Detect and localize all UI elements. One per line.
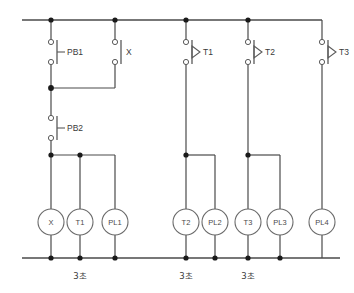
- pb1-terminal-top: [48, 39, 53, 44]
- contact-pb2[interactable]: PB2: [48, 115, 83, 140]
- group1-distribution-bus: [51, 155, 115, 258]
- coil-t3[interactable]: T3: [235, 209, 261, 235]
- node-bottom-x: [48, 255, 53, 260]
- contact-t2[interactable]: T2: [245, 39, 275, 64]
- t3-terminal-bottom: [319, 59, 324, 64]
- timer-setting-t2: 3초: [179, 271, 192, 281]
- coil-x-label: X: [48, 218, 53, 227]
- node-bottom-t3: [245, 255, 250, 260]
- contact-t3[interactable]: T3: [319, 39, 349, 64]
- node-bus2-left: [183, 152, 188, 157]
- node-bottom-t2: [183, 255, 188, 260]
- t2-terminal-top: [245, 39, 250, 44]
- coil-t1[interactable]: T1: [67, 209, 93, 235]
- lamp-pl2-label: PL2: [208, 218, 221, 227]
- t1-terminal-bottom: [183, 59, 188, 64]
- lamp-pl4[interactable]: PL4: [309, 209, 335, 235]
- x-terminal-top: [112, 39, 117, 44]
- t2-timer-triangle-icon: [254, 46, 262, 58]
- node-top-x: [112, 17, 117, 22]
- node-bottom-pl2: [212, 255, 217, 260]
- node-bus3-left: [245, 152, 250, 157]
- node-bottom-t1: [77, 255, 82, 260]
- pb1-terminal-bottom: [48, 59, 53, 64]
- node-top-t2: [245, 17, 250, 22]
- lamp-pl1[interactable]: PL1: [102, 209, 128, 235]
- lamp-pl1-label: PL1: [108, 218, 121, 227]
- timer-setting-t3: 3초: [241, 271, 254, 281]
- t1-timer-triangle-icon: [192, 46, 200, 58]
- t3-terminal-top: [319, 39, 324, 44]
- diagram-canvas: PB1 X PB2 T1: [0, 0, 354, 293]
- contact-x-label: X: [126, 47, 132, 57]
- contact-t1-label: T1: [203, 47, 213, 57]
- lamp-pl4-label: PL4: [315, 218, 328, 227]
- node-bus1-left: [48, 152, 53, 157]
- t3-timer-triangle-icon: [328, 46, 336, 58]
- contact-t2-label: T2: [265, 47, 275, 57]
- t1-terminal-top: [183, 39, 188, 44]
- coil-t1-label: T1: [76, 218, 85, 227]
- lamp-pl3-label: PL3: [273, 218, 286, 227]
- coil-t2-label: T2: [182, 218, 191, 227]
- timer-setting-labels: 3초 3초 3초: [73, 271, 254, 281]
- contact-t1[interactable]: T1: [183, 39, 213, 64]
- ladder-diagram-svg: PB1 X PB2 T1: [0, 0, 354, 293]
- contact-pb1-label: PB1: [67, 47, 83, 57]
- contact-x[interactable]: X: [112, 39, 132, 64]
- timer-setting-t1: 3초: [73, 271, 86, 281]
- x-terminal-bottom: [112, 59, 117, 64]
- node-top-pb1: [48, 17, 53, 22]
- pb2-terminal-top: [48, 115, 53, 120]
- node-top-t1: [183, 17, 188, 22]
- lamp-pl2[interactable]: PL2: [202, 209, 228, 235]
- coil-t3-label: T3: [244, 218, 253, 227]
- contact-t3-label: T3: [339, 47, 349, 57]
- node-seal-in: [48, 85, 54, 91]
- contact-pb2-label: PB2: [67, 123, 83, 133]
- node-bottom-pl3: [277, 255, 282, 260]
- pb2-terminal-bottom: [48, 135, 53, 140]
- t2-terminal-bottom: [245, 59, 250, 64]
- rung-start-stop: [51, 20, 115, 155]
- node-bus1-t1: [77, 152, 82, 157]
- contact-pb1[interactable]: PB1: [48, 39, 83, 64]
- lamp-pl3[interactable]: PL3: [267, 209, 293, 235]
- coil-x[interactable]: X: [38, 209, 64, 235]
- coil-t2[interactable]: T2: [173, 209, 199, 235]
- node-bottom-pl1: [112, 255, 117, 260]
